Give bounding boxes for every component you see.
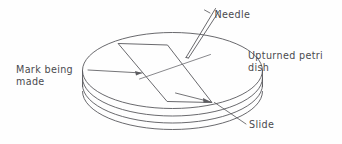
label-slide: Slide [249,119,274,130]
dish-rim-arc-1 [83,78,263,116]
upturned-petri-dish [83,33,263,130]
label-upturned-petri-dish-line1: Upturned petri [248,50,323,61]
mark-being-made [140,55,211,80]
leader-mark-secondary-arrowhead [203,98,211,103]
leader-needle-line [205,10,211,13]
glass-slide [119,44,213,103]
label-upturned-petri-dish-line2: dish [248,62,269,73]
needle-tip [186,58,189,59]
label-mark-being-made-line2: made [16,76,45,87]
slide-outline [119,44,213,103]
diagram-figure: Needle Upturned petri dish Mark being ma… [0,0,342,144]
label-mark-being-made-line1: Mark being [16,64,73,75]
diagram-canvas: Needle Upturned petri dish Mark being ma… [0,0,342,144]
leader-needle [205,10,211,13]
dish-top-rim-ellipse [83,33,263,109]
leader-mark-arrowhead [135,71,142,76]
mark-line [140,55,211,80]
label-needle: Needle [215,9,251,20]
leader-mark-being-made [88,70,142,76]
leader-mark-line [88,70,142,73]
